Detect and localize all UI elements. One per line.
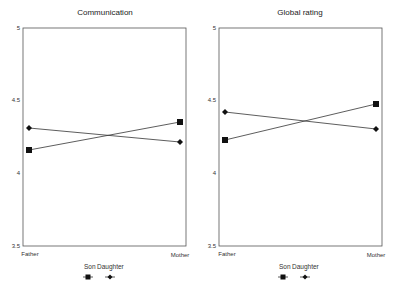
- daughter-father-marker: [222, 109, 228, 115]
- legend: Son Daughter: [278, 263, 320, 280]
- daughter-mother-marker: [373, 126, 379, 132]
- y-tick-4-5: 4.5: [12, 97, 21, 103]
- son-line: [29, 122, 180, 150]
- y-tick-3-5: 3.5: [12, 243, 21, 249]
- legend: Son Daughter: [83, 263, 125, 280]
- legend-square-icon: [86, 275, 91, 280]
- y-tick-4-5: 4.5: [208, 97, 217, 103]
- x-label-mother: Mother: [367, 252, 386, 258]
- daughter-father-marker: [26, 125, 32, 131]
- legend-daughter-label: Daughter: [97, 263, 125, 271]
- daughter-mother-marker: [177, 139, 183, 145]
- son-father-marker: [222, 137, 228, 143]
- chart-communication: Communication 5 4.5 4 3.5 Father Mother …: [12, 8, 190, 280]
- y-tick-4: 4: [213, 170, 217, 176]
- legend-daughter-label: Daughter: [292, 263, 320, 271]
- legend-diamond-icon: [108, 275, 113, 280]
- legend-square-icon: [281, 275, 286, 280]
- y-tick-5: 5: [17, 25, 21, 31]
- x-label-father: Father: [218, 251, 235, 257]
- figure: Communication 5 4.5 4 3.5 Father Mother …: [0, 0, 396, 292]
- son-mother-marker: [177, 119, 183, 125]
- y-tick-5: 5: [213, 25, 217, 31]
- son-father-marker: [26, 147, 32, 153]
- x-label-father: Father: [21, 251, 38, 257]
- legend-son-label: Son: [84, 263, 96, 270]
- plot-frame: [23, 28, 186, 246]
- x-label-mother: Mother: [171, 252, 190, 258]
- chart-title: Communication: [77, 8, 133, 17]
- son-line: [225, 104, 376, 140]
- daughter-line: [225, 112, 376, 129]
- chart-title: Global rating: [277, 8, 322, 17]
- son-mother-marker: [373, 101, 379, 107]
- y-tick-3-5: 3.5: [208, 243, 217, 249]
- y-tick-4: 4: [17, 170, 21, 176]
- chart-global-rating: Global rating 5 4.5 4 3.5 Father Mother …: [208, 8, 386, 280]
- legend-son-label: Son: [279, 263, 291, 270]
- plot-frame: [219, 28, 382, 246]
- daughter-line: [29, 128, 180, 142]
- legend-diamond-icon: [303, 275, 308, 280]
